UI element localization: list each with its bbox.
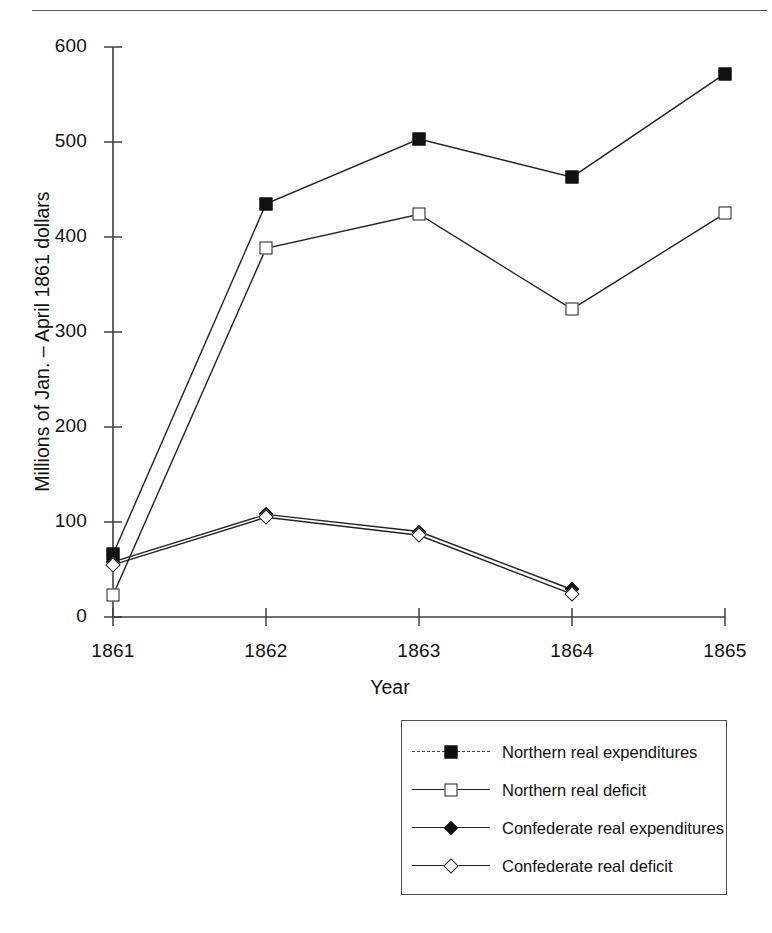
x-axis-title: Year — [330, 676, 450, 699]
filled-diamond-marker — [444, 821, 458, 835]
legend-sample — [412, 856, 490, 876]
open-square-marker — [445, 784, 458, 797]
filled-square-marker — [445, 746, 458, 759]
series-lines — [113, 74, 725, 596]
legend-label: Confederate real deficit — [502, 857, 673, 876]
series-line — [113, 74, 725, 555]
open-square-marker — [566, 303, 579, 316]
legend-item[interactable]: Confederate real deficit — [402, 851, 726, 881]
open-square-marker — [413, 208, 426, 221]
y-tick-label: 0 — [35, 605, 87, 627]
series-line — [113, 517, 572, 594]
y-tick-label: 600 — [35, 35, 87, 57]
legend-sample — [412, 780, 490, 800]
x-tick-label: 1864 — [527, 640, 617, 662]
filled-square-marker — [719, 67, 732, 80]
legend-item[interactable]: Northern real expenditures — [402, 737, 726, 767]
legend-sample — [412, 742, 490, 762]
legend-item[interactable]: Confederate real expenditures — [402, 813, 726, 843]
open-diamond-marker — [443, 858, 459, 874]
legend-sample — [412, 818, 490, 838]
legend-item[interactable]: Northern real deficit — [402, 775, 726, 805]
legend-label: Northern real expenditures — [502, 743, 697, 762]
x-tick-label: 1863 — [374, 640, 464, 662]
open-square-marker — [107, 589, 120, 602]
chart-legend: Northern real expendituresNorthern real … — [401, 720, 727, 895]
x-tick-label: 1865 — [680, 640, 770, 662]
filled-square-marker — [413, 133, 426, 146]
open-square-marker — [719, 207, 732, 220]
legend-label: Northern real deficit — [502, 781, 646, 800]
x-tick-label: 1862 — [221, 640, 311, 662]
legend-label: Confederate real expenditures — [502, 819, 724, 838]
y-axis-title: Millions of Jan. – April 1861 dollars — [31, 127, 54, 557]
filled-square-marker — [260, 197, 273, 210]
open-square-marker — [260, 242, 273, 255]
x-tick-label: 1861 — [68, 640, 158, 662]
filled-square-marker — [566, 171, 579, 184]
